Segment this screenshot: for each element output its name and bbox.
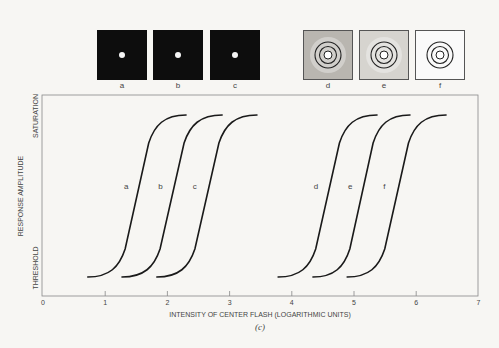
x-axis-label: INTENSITY OF CENTER FLASH (LOGARITHMIC U…	[169, 311, 351, 319]
curve-label-f: f	[383, 182, 386, 191]
x-tick-label: 6	[414, 299, 418, 306]
y-tick-threshold: THRESHOLD	[32, 246, 39, 289]
x-tick-label: 5	[352, 299, 356, 306]
figure-caption: (c)	[255, 322, 265, 332]
curve-label-c: c	[193, 182, 197, 191]
curve-label-b: b	[158, 182, 163, 191]
axes-frame	[42, 95, 478, 296]
curve-label-e: e	[348, 182, 353, 191]
x-tick-label: 4	[290, 299, 294, 306]
curve-label-a: a	[124, 182, 129, 191]
x-tick-label: 2	[165, 299, 169, 306]
x-tick-label: 3	[228, 299, 232, 306]
x-tick-label: 0	[41, 299, 45, 306]
response-curves: abcdef	[88, 115, 446, 277]
x-tick-label: 1	[103, 299, 107, 306]
x-tick-label: 7	[476, 299, 480, 306]
x-axis-ticks: 01234567	[41, 291, 480, 306]
curve-label-d: d	[314, 182, 318, 191]
y-tick-saturation: SATURATION	[32, 94, 39, 138]
y-axis-label: RESPONSE AMPLITUDE	[17, 155, 24, 236]
response-chart: 01234567 abcdef RESPONSE AMPLITUDE SATUR…	[0, 0, 499, 348]
